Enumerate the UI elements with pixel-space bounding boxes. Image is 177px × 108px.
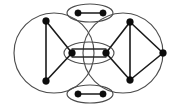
e-center-right-bot: [106, 53, 130, 80]
n-right-far: [160, 50, 167, 57]
e-center-right-top: [106, 22, 130, 53]
group-right-circle: [83, 13, 163, 93]
e-right-bot-far: [130, 53, 163, 80]
n-bottom-left: [75, 91, 81, 97]
n-right-top: [127, 19, 134, 26]
group-left-circle: [14, 13, 94, 93]
e-right-top-far: [130, 22, 163, 53]
n-left-bottom: [43, 78, 50, 85]
graph-canvas: [0, 0, 177, 108]
n-right-bottom: [127, 77, 134, 84]
n-left-top: [43, 18, 50, 25]
n-center-left: [69, 50, 76, 57]
e-left-top-center: [46, 21, 72, 53]
e-left-bot-center: [46, 53, 72, 81]
n-bottom-right: [100, 91, 106, 97]
n-top-right: [100, 10, 106, 16]
graph-figure: [0, 0, 177, 108]
n-center-right: [103, 50, 110, 57]
n-top-left: [75, 10, 81, 16]
group-hull-layer: [14, 4, 163, 103]
